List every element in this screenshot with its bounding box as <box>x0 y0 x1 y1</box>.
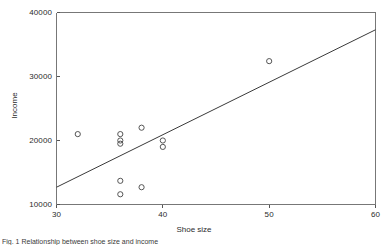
data-point <box>75 132 80 137</box>
data-point <box>139 125 144 130</box>
y-tick-label: 40000 <box>6 8 52 17</box>
data-point <box>118 141 123 146</box>
data-point <box>160 138 165 143</box>
data-point <box>160 144 165 149</box>
data-point <box>267 59 272 64</box>
plot-canvas <box>0 0 388 245</box>
data-points <box>75 59 272 197</box>
data-point <box>118 178 123 183</box>
data-point <box>118 192 123 197</box>
data-point <box>118 132 123 137</box>
y-tick-label: 20000 <box>6 136 52 145</box>
x-axis-title: Shoe size <box>0 225 388 234</box>
x-tick-label: 50 <box>254 210 284 219</box>
y-tick-label: 10000 <box>6 200 52 209</box>
data-point <box>139 185 144 190</box>
x-tick-label: 60 <box>361 210 388 219</box>
x-tick-label: 40 <box>148 210 178 219</box>
regression-line <box>57 30 376 187</box>
figure-scatter-shoe-size-income: 10000200003000040000 30405060 Shoe size … <box>0 0 388 245</box>
y-axis-title: Income <box>10 76 19 136</box>
x-tick-label: 30 <box>42 210 72 219</box>
trend-line <box>57 30 376 187</box>
figure-caption: Fig. 1 Relationship between shoe size an… <box>2 237 386 245</box>
